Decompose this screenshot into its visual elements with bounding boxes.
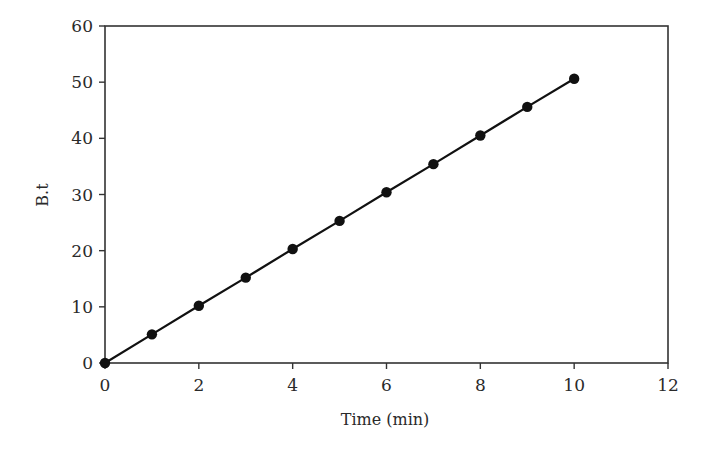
data-point-marker bbox=[194, 301, 204, 311]
data-point-marker bbox=[569, 74, 579, 84]
data-series bbox=[100, 74, 580, 369]
data-point-marker bbox=[241, 272, 251, 282]
data-point-marker bbox=[287, 244, 297, 254]
x-tick-label: 0 bbox=[100, 375, 111, 395]
data-point-marker bbox=[100, 358, 110, 368]
data-point-marker bbox=[147, 329, 157, 339]
x-tick-label: 12 bbox=[657, 375, 679, 395]
y-tick-label: 0 bbox=[82, 353, 93, 373]
line-chart: 0102030405060 024681012 Time (min) B.t bbox=[0, 0, 713, 450]
data-point-marker bbox=[475, 130, 485, 140]
y-tick-label: 40 bbox=[71, 128, 93, 148]
data-point-marker bbox=[428, 159, 438, 169]
y-tick-label: 20 bbox=[71, 241, 93, 261]
data-point-marker bbox=[381, 187, 391, 197]
x-axis-label: Time (min) bbox=[341, 410, 430, 429]
data-point-marker bbox=[334, 216, 344, 226]
x-tick-label: 8 bbox=[475, 375, 486, 395]
x-axis-ticks: 024681012 bbox=[100, 363, 679, 395]
y-tick-label: 30 bbox=[71, 185, 93, 205]
x-tick-label: 6 bbox=[381, 375, 392, 395]
x-tick-label: 4 bbox=[287, 375, 298, 395]
y-axis-label: B.t bbox=[33, 183, 52, 207]
x-tick-label: 10 bbox=[563, 375, 585, 395]
y-axis-ticks: 0102030405060 bbox=[71, 16, 105, 373]
x-tick-label: 2 bbox=[193, 375, 204, 395]
y-tick-label: 60 bbox=[71, 16, 93, 36]
y-tick-label: 10 bbox=[71, 297, 93, 317]
y-tick-label: 50 bbox=[71, 72, 93, 92]
data-point-marker bbox=[522, 102, 532, 112]
